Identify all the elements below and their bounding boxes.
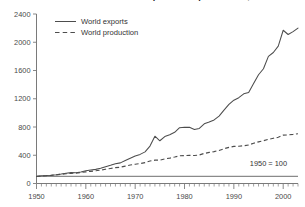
x-tick-label-1980: 1980 bbox=[176, 192, 192, 201]
chart-legend: World exports World production bbox=[55, 17, 138, 37]
legend-label-production: World production bbox=[81, 28, 138, 37]
baseline-annotation: 1950 = 100 bbox=[250, 159, 287, 168]
x-tick-label-1950: 1950 bbox=[28, 192, 44, 201]
y-tick-label-800: 800 bbox=[18, 123, 30, 132]
x-tick-label-1970: 1970 bbox=[127, 192, 143, 201]
y-tick-label-2000: 2000 bbox=[14, 38, 30, 47]
x-tick-label-1960: 1960 bbox=[78, 192, 94, 201]
series-line-world-exports bbox=[37, 28, 299, 176]
y-tick-label-1200: 1200 bbox=[14, 94, 30, 103]
y-tick-label-0: 0 bbox=[26, 179, 30, 188]
x-tick-label-2000: 2000 bbox=[275, 192, 291, 201]
y-axis-tick-labels: 04008001200160020002400 bbox=[14, 10, 30, 189]
y-tick-label-2400: 2400 bbox=[14, 10, 30, 19]
y-tick-label-400: 400 bbox=[18, 151, 30, 160]
chart-figure: Growth in world merchandise exports and … bbox=[0, 0, 305, 207]
series-line-world-production bbox=[37, 134, 299, 177]
y-axis-ticks bbox=[33, 14, 37, 184]
x-tick-label-1990: 1990 bbox=[226, 192, 242, 201]
line-chart-plot: 04008001200160020002400 1950196019701980… bbox=[0, 0, 305, 207]
y-tick-label-1600: 1600 bbox=[14, 66, 30, 75]
x-axis-tick-labels: 195019601970198019902000 bbox=[28, 192, 291, 201]
legend-label-exports: World exports bbox=[81, 17, 128, 26]
